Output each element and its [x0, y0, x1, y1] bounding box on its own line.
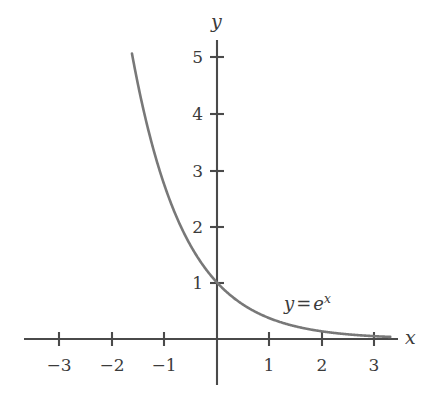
x-tick-label: 3 — [369, 355, 380, 375]
x-tick-label: 2 — [317, 355, 328, 375]
x-axis-name-label: x — [405, 326, 416, 348]
exponential-plot-figure: y x y=ex −3−2−1123 12345 — [0, 0, 437, 402]
equation-exponent: x — [324, 292, 331, 306]
exponential-curve — [132, 54, 390, 337]
x-tick-label: −2 — [99, 355, 124, 375]
curve-group — [132, 54, 390, 337]
x-tick-label: 1 — [264, 355, 275, 375]
equation-base: e — [313, 293, 324, 314]
y-tick-label: 3 — [179, 161, 203, 181]
x-tick-label: −1 — [151, 355, 176, 375]
y-tick-label: 1 — [179, 273, 203, 293]
x-tick-label: −3 — [46, 355, 71, 375]
equation-lhs: y — [284, 293, 294, 314]
y-axis-name-label: y — [211, 10, 222, 32]
equation-operator: = — [294, 293, 313, 314]
plot-canvas — [0, 0, 437, 402]
y-tick-label: 4 — [179, 104, 203, 124]
y-tick-label: 2 — [179, 217, 203, 237]
curve-equation-label: y=ex — [284, 293, 331, 314]
y-tick-label: 5 — [179, 47, 203, 67]
